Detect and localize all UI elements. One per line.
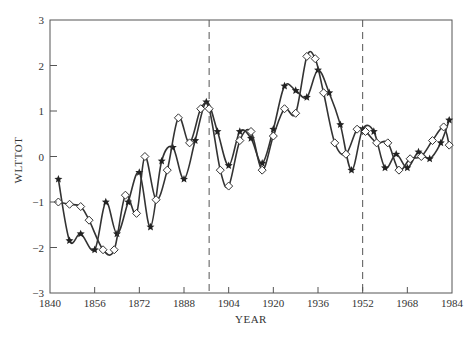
y-tick-label: 1 [39, 105, 45, 117]
axis-ticks: 1840185618721888190419201936195219681984… [32, 14, 463, 309]
diamond-marker [353, 125, 361, 133]
diamond-marker [384, 139, 392, 147]
x-tick-label: 1984 [441, 297, 464, 309]
diamond-marker [395, 166, 403, 174]
diamond-marker [320, 89, 328, 97]
plot-border [50, 20, 452, 293]
star-marker [303, 93, 311, 101]
y-tick-label: −2 [32, 242, 44, 254]
star-marker [91, 246, 99, 254]
x-tick-label: 1968 [396, 297, 419, 309]
star-marker [381, 164, 389, 172]
diamond-marker [311, 55, 319, 63]
x-axis-title: YEAR [235, 313, 267, 325]
x-tick-label: 1920 [262, 297, 285, 309]
x-tick-label: 1856 [84, 297, 107, 309]
x-tick-label: 1888 [173, 297, 196, 309]
diamond-marker [216, 166, 224, 174]
star-marker [437, 139, 445, 147]
diamond-marker [225, 182, 233, 190]
plot-frame [50, 20, 452, 293]
diamond-marker [331, 139, 339, 147]
diamond-marker [66, 200, 74, 208]
diamond-marker [85, 216, 93, 224]
diamond-marker [303, 52, 311, 60]
y-tick-label: 3 [39, 14, 45, 26]
x-tick-label: 1952 [352, 297, 374, 309]
y-tick-label: 2 [39, 60, 45, 72]
diamond-marker [141, 153, 149, 161]
y-tick-label: −1 [32, 196, 44, 208]
x-tick-label: 1904 [218, 297, 241, 309]
star-marker [147, 223, 155, 231]
line-chart: 1840185618721888190419201936195219681984… [0, 0, 474, 339]
y-axis-title: WLTTOT [12, 137, 24, 184]
diamond-marker [281, 105, 289, 113]
x-tick-label: 1936 [307, 297, 330, 309]
x-tick-label: 1872 [128, 297, 150, 309]
y-tick-label: −3 [32, 287, 44, 299]
y-tick-label: 0 [39, 151, 45, 163]
diamond-marker [163, 166, 171, 174]
diamond-marker [110, 246, 118, 254]
series-layer [54, 52, 453, 256]
